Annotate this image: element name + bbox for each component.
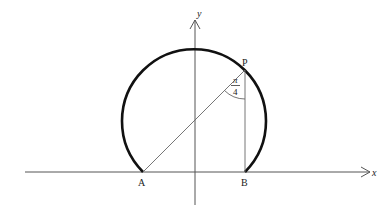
y-axis-label: y	[196, 8, 202, 19]
point-P-label: P	[242, 57, 248, 68]
point-B-label: B	[241, 177, 248, 188]
x-axis-label: x	[371, 167, 377, 178]
point-A-label: A	[138, 177, 146, 188]
angle-denominator: 4	[233, 87, 238, 97]
chord-AP	[143, 70, 245, 172]
angle-numerator: π	[233, 75, 238, 85]
circle-diagram: y x P A B π 4	[0, 0, 391, 209]
